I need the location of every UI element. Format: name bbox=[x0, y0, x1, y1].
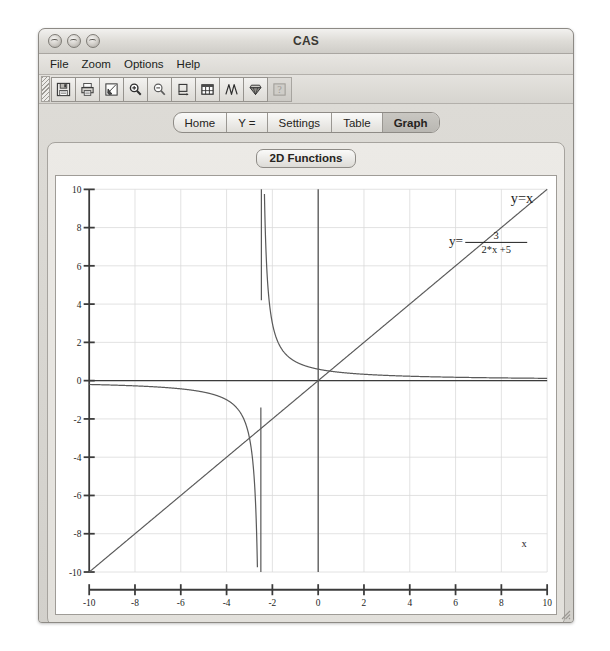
toolbar-drag-handle[interactable] bbox=[41, 76, 50, 102]
save-button[interactable] bbox=[51, 77, 76, 102]
svg-text:3: 3 bbox=[494, 230, 499, 241]
zoom-box-button[interactable] bbox=[171, 77, 196, 102]
svg-text:10: 10 bbox=[542, 598, 552, 608]
tab-home[interactable]: Home bbox=[174, 113, 228, 132]
tab-strip: Home Y = Settings Table Graph bbox=[173, 112, 440, 133]
zoom-button[interactable] bbox=[86, 34, 100, 48]
zoom-out-icon bbox=[152, 82, 167, 97]
zoom-in-icon bbox=[128, 82, 143, 97]
panel-title-2d-functions[interactable]: 2D Functions bbox=[256, 149, 357, 168]
help-button[interactable]: ? bbox=[267, 77, 292, 102]
graph-panel: 2D Functions 1086420-2-4-6-8-10-10-8-6-4… bbox=[47, 142, 565, 623]
zoom-in-button[interactable] bbox=[123, 77, 148, 102]
table-icon bbox=[200, 82, 215, 97]
svg-text:4: 4 bbox=[407, 598, 412, 608]
crop-region-icon bbox=[176, 82, 191, 97]
content-area: Home Y = Settings Table Graph 2D Functio… bbox=[39, 104, 573, 623]
menu-item-help[interactable]: Help bbox=[171, 57, 208, 72]
svg-text:-10: -10 bbox=[83, 598, 96, 608]
pointer-edit-icon bbox=[104, 82, 119, 97]
function-button[interactable] bbox=[219, 77, 244, 102]
svg-text:-8: -8 bbox=[131, 598, 139, 608]
resize-grip[interactable] bbox=[558, 607, 571, 620]
plot-tick-labels: 1086420-2-4-6-8-10-10-8-6-4-20246810 bbox=[69, 185, 552, 608]
menu-item-zoom[interactable]: Zoom bbox=[76, 57, 118, 72]
window-controls bbox=[48, 34, 100, 48]
plot-axes bbox=[84, 189, 547, 595]
svg-text:8: 8 bbox=[77, 223, 82, 233]
svg-text:6: 6 bbox=[453, 598, 458, 608]
window-title: CAS bbox=[39, 34, 573, 48]
svg-text:-4: -4 bbox=[223, 598, 231, 608]
menu-item-options[interactable]: Options bbox=[118, 57, 171, 72]
svg-text:x: x bbox=[522, 538, 528, 549]
svg-text:-6: -6 bbox=[177, 598, 185, 608]
plot-frame[interactable]: 1086420-2-4-6-8-10-10-8-6-4-20246810 y=x… bbox=[55, 175, 557, 615]
menu-item-file[interactable]: File bbox=[44, 57, 76, 72]
tab-graph[interactable]: Graph bbox=[383, 113, 439, 132]
toolbar: ? bbox=[39, 75, 573, 104]
svg-text:-8: -8 bbox=[74, 529, 82, 539]
save-icon bbox=[56, 82, 71, 97]
svg-text:-10: -10 bbox=[69, 568, 82, 578]
svg-text:-2: -2 bbox=[268, 598, 276, 608]
svg-text:0: 0 bbox=[316, 598, 321, 608]
zoom-out-button[interactable] bbox=[147, 77, 172, 102]
table-button[interactable] bbox=[195, 77, 220, 102]
help-icon: ? bbox=[272, 82, 287, 97]
evaluate-button[interactable] bbox=[243, 77, 268, 102]
tab-settings[interactable]: Settings bbox=[268, 113, 333, 132]
svg-text:y=x: y=x bbox=[511, 190, 534, 206]
print-button[interactable] bbox=[75, 77, 100, 102]
svg-text:10: 10 bbox=[72, 185, 82, 195]
select-button[interactable] bbox=[99, 77, 124, 102]
svg-text:-2: -2 bbox=[74, 415, 82, 425]
cas-application-window: CAS File Zoom Options Help bbox=[38, 28, 574, 623]
print-icon bbox=[80, 82, 95, 97]
svg-text:y=: y= bbox=[449, 233, 463, 248]
svg-text:2: 2 bbox=[77, 338, 82, 348]
svg-text:2: 2 bbox=[362, 598, 367, 608]
menu-bar: File Zoom Options Help bbox=[39, 54, 573, 75]
tab-y-equals[interactable]: Y = bbox=[227, 113, 267, 132]
title-bar: CAS bbox=[39, 29, 573, 54]
gem-icon bbox=[248, 82, 263, 97]
svg-text:?: ? bbox=[277, 84, 282, 95]
close-button[interactable] bbox=[48, 34, 62, 48]
svg-text:6: 6 bbox=[77, 262, 82, 272]
function-plot[interactable]: 1086420-2-4-6-8-10-10-8-6-4-20246810 y=x… bbox=[56, 176, 556, 614]
wave-function-icon bbox=[224, 82, 239, 97]
svg-text:2*x +5: 2*x +5 bbox=[481, 244, 511, 255]
svg-text:-4: -4 bbox=[74, 453, 82, 463]
svg-text:8: 8 bbox=[499, 598, 504, 608]
minimize-button[interactable] bbox=[67, 34, 81, 48]
tab-table[interactable]: Table bbox=[332, 113, 383, 132]
svg-text:0: 0 bbox=[77, 376, 82, 386]
svg-text:4: 4 bbox=[77, 300, 82, 310]
svg-text:-6: -6 bbox=[74, 491, 82, 501]
